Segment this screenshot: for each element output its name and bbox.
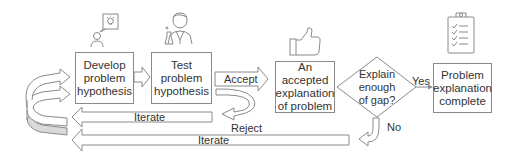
- decision-label: Explain enough of gap?: [347, 68, 407, 107]
- accept-label: Accept: [224, 73, 258, 85]
- step-accepted-explanation: An accepted explanation of problem: [275, 61, 335, 113]
- scientist-icon: [165, 13, 192, 44]
- step-complete-line-3: complete: [433, 95, 492, 108]
- step-complete-line-1: Problem: [433, 69, 492, 82]
- iterate-outer-label: Iterate: [198, 134, 229, 146]
- no-arrow: [359, 118, 379, 146]
- decision-line-1: Explain: [347, 68, 407, 81]
- step-accepted-line-1: An accepted: [276, 61, 335, 87]
- step-develop-line-1: Develop: [77, 59, 132, 72]
- iterate-inner-label: Iterate: [134, 111, 165, 123]
- step-complete-line-2: explanation: [433, 82, 492, 95]
- decision-line-2: enough: [347, 81, 407, 94]
- step-accepted-line-2: explanation: [276, 87, 335, 100]
- person-idea-icon: [91, 14, 118, 47]
- yes-label: Yes: [412, 75, 430, 87]
- process-diagram: Develop problem hypothesis Test problem …: [0, 0, 511, 156]
- step-test-line-2: problem: [154, 72, 209, 85]
- reject-label: Reject: [231, 122, 262, 134]
- thumbs-up-icon: [290, 28, 320, 55]
- step-test-line-3: hypothesis: [154, 85, 209, 98]
- step-develop-hypothesis: Develop problem hypothesis: [75, 52, 134, 104]
- step-develop-line-3: hypothesis: [77, 85, 132, 98]
- cycle-arrows-icon: [26, 69, 70, 135]
- step-accepted-line-3: of problem: [276, 100, 335, 113]
- step-test-line-1: Test: [154, 59, 209, 72]
- decision-line-3: of gap?: [347, 94, 407, 107]
- no-label: No: [387, 121, 401, 133]
- step-explanation-complete: Problem explanation complete: [433, 63, 492, 113]
- step-test-hypothesis: Test problem hypothesis: [151, 52, 212, 104]
- clipboard-checklist-icon: [448, 13, 474, 53]
- arrow-develop-to-test: [134, 67, 150, 87]
- step-develop-line-2: problem: [77, 72, 132, 85]
- reject-arrow: [216, 89, 255, 120]
